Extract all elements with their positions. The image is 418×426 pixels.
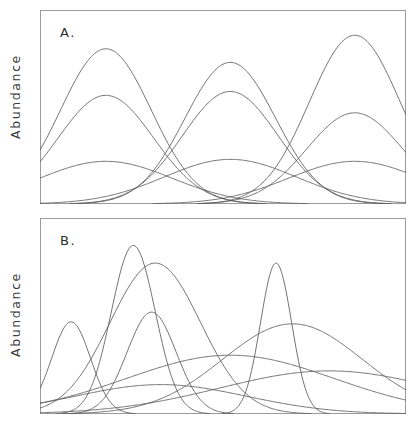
panel-letter-b: B. — [60, 233, 76, 248]
y-axis-label-panel-a: Abundance — [0, 0, 30, 193]
plot-frame-a — [41, 11, 406, 204]
plot-svg-panel-b — [40, 218, 406, 414]
plot-area-panel-b — [40, 218, 406, 414]
y-axis-label-panel-b: Abundance — [0, 218, 30, 411]
plot-svg-panel-a — [40, 10, 406, 204]
panel-a: Abundance A. — [0, 0, 418, 213]
panel-b: Abundance B. — [0, 213, 418, 426]
plot-area-panel-a — [40, 10, 406, 204]
y-axis-label-text-a: Abundance — [8, 54, 23, 139]
figure-root: Abundance A. Abundance B. — [0, 0, 418, 426]
y-axis-label-text-b: Abundance — [8, 272, 23, 357]
panel-letter-a: A. — [60, 25, 76, 40]
